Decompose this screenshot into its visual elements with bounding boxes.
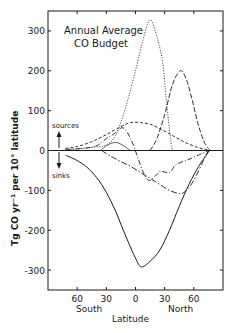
series-solid-line — [66, 151, 210, 267]
x-axis-label: Latitude — [112, 314, 150, 324]
y-tick-label: -100 — [25, 186, 46, 196]
y-tick-label: 300 — [28, 26, 45, 36]
sinks-arrow-icon — [57, 152, 62, 169]
x-tick-label: 0 — [133, 294, 139, 304]
chart-title: Annual Average — [64, 25, 143, 36]
chart-subtitle: CO Budget — [74, 38, 128, 49]
axis-layer: 3002001000-100-200-300603003060 — [25, 11, 223, 304]
y-tick-label: -200 — [25, 226, 46, 236]
y-tick-label: -300 — [25, 266, 46, 276]
series-long-dash-line — [150, 71, 210, 151]
x-region-north-label: North — [168, 304, 193, 314]
y-tick-label: 200 — [28, 66, 45, 76]
x-tick-label: 60 — [188, 294, 200, 304]
x-tick-label: 30 — [159, 294, 171, 304]
series-dash-dot-line — [66, 128, 210, 181]
plot-frame — [48, 11, 223, 290]
y-tick-label: 100 — [28, 106, 45, 116]
x-region-south-label: South — [76, 304, 102, 314]
sources-annotation: sources — [52, 122, 79, 130]
series-dash-dot-long-line — [102, 151, 210, 194]
series-short-dash-line — [66, 122, 210, 150]
y-axis-label: Tg CO yr⁻¹ per 10° latitude — [10, 111, 20, 246]
y-tick-label: 0 — [39, 146, 45, 156]
series-fine-arc-line — [101, 142, 131, 150]
sources-arrow-icon — [57, 131, 62, 148]
x-tick-label: 30 — [101, 294, 113, 304]
chart: 3002001000-100-200-300603003060 Annual A… — [0, 0, 236, 333]
series-layer — [66, 20, 211, 267]
sinks-annotation: sinks — [52, 172, 70, 180]
x-tick-label: 60 — [71, 294, 83, 304]
